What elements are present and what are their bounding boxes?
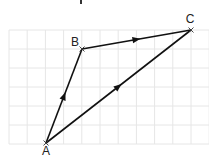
point-label-A: A [42,144,50,158]
point-A: A [42,141,50,159]
point-label-C: C [186,12,195,26]
point-label-B: B [71,35,79,49]
square-grid [9,30,209,144]
vector-triangle-diagram: ABC [0,0,209,159]
point-C: C [186,12,195,33]
